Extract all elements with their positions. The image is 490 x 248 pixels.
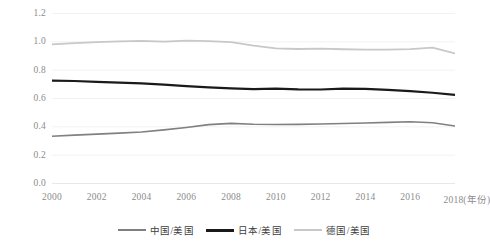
y-tick-label: 0.8 [34, 65, 46, 75]
x-tick-label: 2008 [221, 192, 241, 202]
series-line-3 [52, 41, 455, 54]
legend-item[interactable]: 德国/美国 [294, 223, 370, 237]
y-axis-tick-labels: 0.00.20.40.60.81.01.2 [0, 0, 46, 248]
x-tick-label: 2012 [311, 192, 331, 202]
x-tick-label: 2002 [87, 192, 107, 202]
x-tick-label: 2014 [356, 192, 376, 202]
series-line-2 [52, 81, 455, 95]
legend-label: 中国/美国 [150, 223, 194, 237]
x-tick-label: 2016 [400, 192, 420, 202]
legend-label: 日本/美国 [238, 223, 282, 237]
y-tick-label: 0.2 [34, 150, 46, 160]
chart-legend: 中国/美国日本/美国德国/美国 [0, 220, 488, 240]
y-tick-label: 1.2 [34, 8, 46, 18]
legend-swatch-icon [118, 229, 146, 231]
x-tick-label: 2018(年份) [444, 192, 490, 206]
series-line-1 [52, 122, 455, 136]
y-tick-label: 0.6 [34, 93, 46, 103]
legend-swatch-icon [206, 229, 234, 232]
x-tick-label: 2004 [132, 192, 152, 202]
legend-item[interactable]: 日本/美国 [206, 223, 282, 237]
plot-area [52, 13, 455, 183]
legend-label: 德国/美国 [326, 223, 370, 237]
x-tick-label: 2010 [266, 192, 286, 202]
y-tick-label: 0.4 [34, 121, 46, 131]
legend-item[interactable]: 中国/美国 [118, 223, 194, 237]
legend-swatch-icon [294, 229, 322, 231]
y-tick-label: 1.0 [34, 36, 46, 46]
x-tick-label: 2006 [176, 192, 196, 202]
y-tick-label: 0.0 [34, 178, 46, 188]
x-tick-label: 2000 [42, 192, 62, 202]
series-lines [52, 13, 455, 183]
